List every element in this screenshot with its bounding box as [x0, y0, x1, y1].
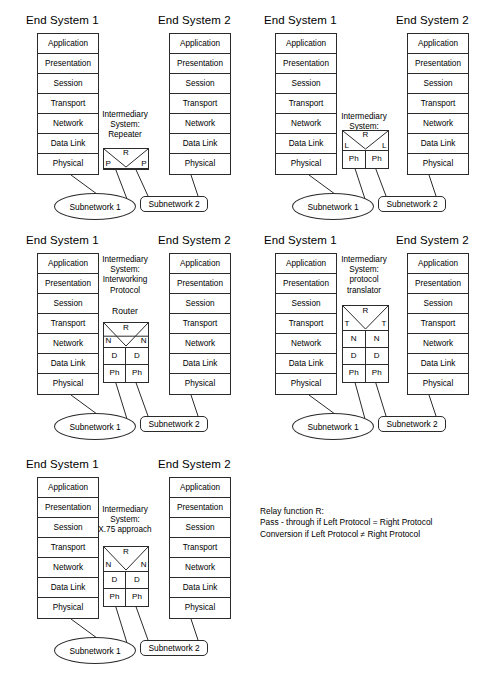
diagram-canvas: End System 1End System 2ApplicationPrese… [0, 0, 485, 684]
subnetwork-2: Subnetwork 2 [378, 196, 446, 212]
layer-data-link: Data Link [170, 578, 230, 598]
layer-stack-right: ApplicationPresentationSessionTransportN… [407, 253, 469, 395]
relay-right-protocol: L [382, 141, 386, 150]
caption-line: translator [333, 286, 395, 296]
protocol-cell-d: D [104, 348, 126, 364]
layer-physical: Physical [276, 374, 336, 394]
layer-physical: Physical [38, 154, 98, 174]
subnetwork-2: Subnetwork 2 [378, 416, 446, 432]
end-system-1-title: End System 1 [26, 234, 99, 246]
protocol-cell-n: N [366, 331, 389, 347]
protocol-cell-ph: Ph [126, 589, 148, 606]
protocol-cell-d: D [343, 348, 366, 364]
protocol-row: PhPh [104, 589, 148, 606]
layer-stack-right: ApplicationPresentationSessionTransportN… [169, 33, 231, 175]
layer-data-link: Data Link [38, 354, 98, 374]
layer-network: Network [38, 114, 98, 134]
layer-physical: Physical [38, 374, 98, 394]
end-system-1-title: End System 1 [264, 234, 337, 246]
layer-stack-left: ApplicationPresentationSessionTransportN… [37, 253, 99, 395]
subnetwork-1: Subnetwork 1 [292, 193, 374, 220]
intermediary-caption-repeater: IntermediarySystem:Repeater [94, 110, 156, 141]
caption-line: Intermediary [94, 255, 156, 265]
layer-application: Application [38, 254, 98, 274]
layer-network: Network [170, 558, 230, 578]
layer-stack-left: ApplicationPresentationSessionTransportN… [275, 33, 337, 175]
intermediary-box-protocol-translator: TRTNNDDPhPh [342, 305, 389, 383]
layer-application: Application [276, 34, 336, 54]
layer-physical: Physical [408, 374, 468, 394]
layer-session: Session [276, 74, 336, 94]
protocol-row: DD [343, 348, 388, 365]
relay-row: TRT [343, 306, 388, 331]
relay-function-legend: Relay function R:Pass - through if Left … [260, 506, 432, 540]
protocol-row: PhPh [343, 151, 388, 168]
layer-physical: Physical [276, 154, 336, 174]
subnetwork-1: Subnetwork 1 [54, 637, 136, 664]
layer-network: Network [170, 114, 230, 134]
protocol-cell-ph: Ph [366, 365, 389, 382]
layer-physical: Physical [170, 598, 230, 618]
caption-line: Intermediary [333, 255, 395, 265]
protocol-cell-ph: Ph [343, 151, 366, 168]
layer-session: Session [408, 294, 468, 314]
end-system-2-title: End System 2 [158, 234, 231, 246]
protocol-cell-n: N [343, 331, 366, 347]
layer-network: Network [276, 334, 336, 354]
layer-data-link: Data Link [276, 354, 336, 374]
layer-presentation: Presentation [170, 498, 230, 518]
relay-row: PRP [104, 149, 148, 169]
layer-network: Network [276, 114, 336, 134]
layer-transport: Transport [408, 94, 468, 114]
intermediary-sublabel-router: Router [94, 306, 156, 316]
layer-data-link: Data Link [276, 134, 336, 154]
relay-row: LRL [343, 131, 388, 151]
caption-line: Repeater [94, 130, 156, 140]
subnetwork-2: Subnetwork 2 [140, 196, 208, 212]
intermediary-box-x75: NRNDDPhPh [103, 546, 149, 607]
layer-transport: Transport [38, 314, 98, 334]
end-system-2-title: End System 2 [396, 14, 469, 26]
panel-protocol-translator: End System 1End System 2ApplicationPrese… [243, 230, 485, 450]
caption-line: System: [88, 515, 162, 525]
layer-presentation: Presentation [276, 274, 336, 294]
layer-presentation: Presentation [408, 274, 468, 294]
layer-application: Application [38, 478, 98, 498]
layer-physical: Physical [38, 598, 98, 618]
caption-line: Intermediary [94, 110, 156, 120]
panel-repeater: End System 1End System 2ApplicationPrese… [0, 0, 243, 230]
relay-row: NRN [104, 547, 148, 572]
relay-left-protocol: L [345, 141, 349, 150]
protocol-cell-d: D [126, 572, 148, 588]
layer-transport: Transport [170, 314, 230, 334]
caption-line: System: [94, 265, 156, 275]
intermediary-box-router: NRNDDPhPh [103, 322, 149, 383]
relay-center-label: R [123, 323, 129, 332]
layer-session: Session [170, 294, 230, 314]
protocol-row: DD [104, 572, 148, 589]
layer-application: Application [170, 478, 230, 498]
layer-application: Application [408, 254, 468, 274]
relay-left-protocol: T [345, 319, 350, 328]
caption-line: protocol [333, 275, 395, 285]
legend-line2: Pass - through if Left Protocol = Right … [260, 517, 432, 528]
caption-line: Intermediary [333, 112, 395, 122]
layer-presentation: Presentation [38, 54, 98, 74]
layer-presentation: Presentation [170, 54, 230, 74]
relay-center-label: R [363, 130, 369, 139]
subnetwork-1: Subnetwork 1 [292, 413, 374, 440]
caption-line: Protocol [94, 286, 156, 296]
layer-stack-left: ApplicationPresentationSessionTransportN… [37, 33, 99, 175]
panel-bridge: End System 1End System 2ApplicationPrese… [243, 0, 485, 230]
relay-left-protocol: P [106, 159, 111, 168]
protocol-cell-d: D [104, 572, 126, 588]
layer-session: Session [408, 74, 468, 94]
end-system-2-title: End System 2 [158, 14, 231, 26]
protocol-cell-ph: Ph [104, 589, 126, 606]
layer-session: Session [170, 518, 230, 538]
end-system-1-title: End System 1 [264, 14, 337, 26]
end-system-2-title: End System 2 [158, 458, 231, 470]
protocol-row: PhPh [343, 365, 388, 382]
layer-presentation: Presentation [276, 54, 336, 74]
layer-presentation: Presentation [408, 54, 468, 74]
